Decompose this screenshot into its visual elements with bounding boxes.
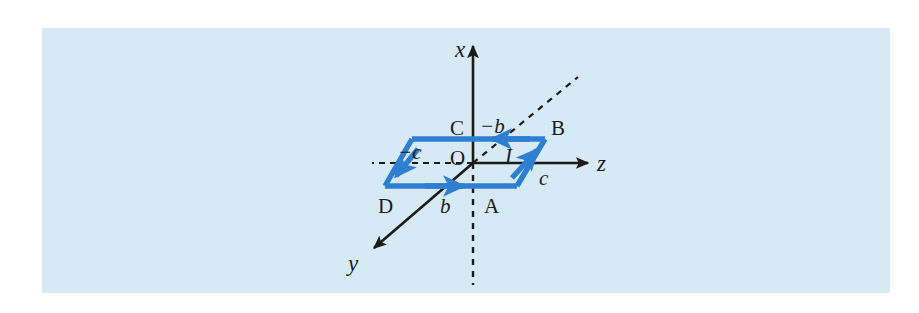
dimension-label-neg-c: −c bbox=[398, 142, 422, 163]
vertex-label-A: A bbox=[484, 196, 499, 217]
vertex-label-B: B bbox=[551, 118, 565, 139]
axis-label-z: z bbox=[597, 152, 606, 175]
origin-label: O bbox=[450, 148, 465, 169]
figure-root: x y z C B A D O −b b −c c I bbox=[0, 0, 919, 313]
vertex-label-C: C bbox=[450, 118, 464, 139]
vertex-label-D: D bbox=[378, 196, 393, 217]
current-label: I bbox=[505, 146, 512, 167]
dimension-label-neg-b: −b bbox=[480, 116, 505, 137]
dimension-label-c: c bbox=[539, 168, 548, 189]
dimension-label-b: b bbox=[440, 196, 451, 217]
axis-label-y: y bbox=[348, 252, 358, 275]
axis-label-x: x bbox=[455, 38, 465, 61]
